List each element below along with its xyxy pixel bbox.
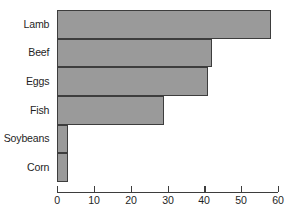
x-tick-label: 20 — [125, 195, 136, 207]
x-tick-label: 50 — [235, 195, 246, 207]
x-tick-label: 0 — [54, 195, 60, 207]
category-axis-labels: Lamb Beef Eggs Fish Soybeans Corn — [0, 10, 53, 182]
category-label: Eggs — [4, 67, 53, 96]
plot-area — [57, 10, 278, 182]
x-tick-label: 60 — [272, 195, 283, 207]
category-label: Beef — [4, 39, 53, 68]
bar-row — [57, 125, 278, 154]
bar — [57, 125, 68, 154]
x-tick-label: 30 — [162, 195, 173, 207]
category-label: Lamb — [4, 10, 53, 39]
category-label: Soybeans — [4, 125, 53, 154]
bar-row — [57, 96, 278, 125]
bar — [57, 10, 271, 39]
category-label: Fish — [4, 96, 53, 125]
bar — [57, 39, 212, 68]
bar — [57, 67, 208, 96]
bar-row — [57, 153, 278, 182]
x-tick-label: 40 — [199, 195, 210, 207]
bar — [57, 153, 68, 182]
bar-chart: Lamb Beef Eggs Fish Soybeans Corn 010203… — [0, 0, 292, 219]
x-axis-tick-labels: 0102030405060 — [57, 195, 278, 215]
bar — [57, 96, 164, 125]
x-tick-mark — [278, 186, 279, 192]
x-axis-line — [57, 192, 278, 193]
bar-row — [57, 10, 278, 39]
bar-row — [57, 67, 278, 96]
bar-row — [57, 39, 278, 68]
x-tick-label: 10 — [88, 195, 99, 207]
category-label: Corn — [4, 153, 53, 182]
